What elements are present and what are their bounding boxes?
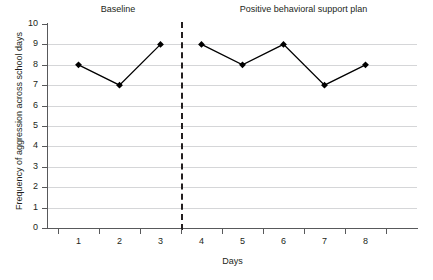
x-axis-title: Days [48, 256, 417, 266]
x-tick-label: 4 [190, 237, 214, 246]
x-tick-mark [181, 229, 182, 234]
y-tick-mark [42, 187, 48, 188]
gridline [48, 187, 417, 188]
y-tick-label: 1 [22, 203, 38, 212]
phase-label-intervention: Positive behavioral support plan [190, 4, 417, 14]
y-tick-label: 3 [22, 162, 38, 171]
y-tick-mark [42, 44, 48, 45]
x-tick-label: 6 [272, 237, 296, 246]
y-tick-label: 6 [22, 101, 38, 110]
x-tick-mark [140, 229, 141, 234]
gridline [48, 208, 417, 209]
y-tick-label: 9 [22, 39, 38, 48]
x-tick-mark [345, 229, 346, 234]
x-tick-label: 7 [313, 237, 337, 246]
y-tick-label: 0 [22, 223, 38, 232]
single-case-line-chart: Baseline Positive behavioral support pla… [0, 0, 433, 280]
gridline [48, 167, 417, 168]
gridline [48, 106, 417, 107]
gridline [48, 44, 417, 45]
plot-area [48, 24, 417, 228]
x-tick-label: 1 [67, 237, 91, 246]
x-tick-mark [263, 229, 264, 234]
y-tick-mark [42, 167, 48, 168]
y-tick-mark [42, 85, 48, 86]
y-tick-label: 5 [22, 121, 38, 130]
x-tick-mark [222, 229, 223, 234]
y-tick-mark [42, 228, 48, 229]
x-tick-mark [304, 229, 305, 234]
x-tick-label: 5 [231, 237, 255, 246]
phase-change-line [181, 22, 183, 230]
gridline [48, 126, 417, 127]
x-tick-label: 3 [149, 237, 173, 246]
y-tick-label: 10 [22, 19, 38, 28]
x-tick-label: 8 [354, 237, 378, 246]
y-tick-label: 7 [22, 80, 38, 89]
x-tick-label: 2 [108, 237, 132, 246]
y-tick-mark [42, 24, 48, 25]
y-tick-mark [42, 208, 48, 209]
y-tick-mark [42, 65, 48, 66]
gridline [48, 85, 417, 86]
y-tick-mark [42, 106, 48, 107]
x-axis-line [47, 228, 418, 229]
x-tick-mark [99, 229, 100, 234]
x-tick-mark [386, 229, 387, 234]
phase-label-baseline: Baseline [48, 4, 188, 14]
y-tick-mark [42, 126, 48, 127]
gridline [48, 146, 417, 147]
y-tick-label: 8 [22, 60, 38, 69]
y-tick-label: 4 [22, 141, 38, 150]
y-tick-label: 2 [22, 182, 38, 191]
y-tick-mark [42, 146, 48, 147]
x-tick-mark [58, 229, 59, 234]
gridline [48, 65, 417, 66]
